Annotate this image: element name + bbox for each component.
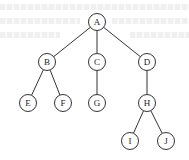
edge-b-f: [50, 70, 60, 95]
tree-node-d: D: [139, 54, 156, 71]
tree-node-i: I: [122, 133, 139, 150]
edge-b-e: [32, 70, 44, 96]
edge-a-d: [104, 27, 141, 56]
node-label: C: [94, 57, 100, 67]
node-label: F: [60, 98, 65, 108]
node-label: H: [144, 98, 151, 108]
tree-node-h: H: [139, 95, 156, 112]
node-label: J: [164, 136, 168, 146]
node-label: E: [25, 98, 31, 108]
tree-edges: [32, 27, 163, 133]
tree-node-c: C: [89, 54, 106, 71]
edge-a-b: [54, 27, 91, 56]
tree-node-a: A: [89, 14, 106, 31]
edge-h-i: [133, 111, 143, 133]
tree-node-e: E: [20, 95, 37, 112]
tree-diagram: ABCDEFGHIJ: [0, 0, 189, 160]
tree-node-j: J: [158, 133, 175, 150]
edge-h-j: [151, 111, 162, 134]
tree-node-g: G: [89, 95, 106, 112]
node-label: B: [44, 57, 50, 67]
node-label: I: [129, 136, 132, 146]
tree-node-b: B: [39, 54, 56, 71]
node-label: G: [94, 98, 101, 108]
tree-node-f: F: [55, 95, 72, 112]
node-label: A: [94, 17, 101, 27]
node-label: D: [144, 57, 151, 67]
